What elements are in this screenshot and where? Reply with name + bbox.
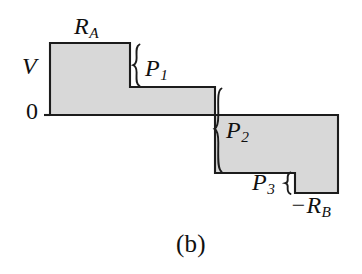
label-voltage-axis: V (22, 54, 37, 78)
label-region-b: −RB (290, 193, 331, 220)
p3-brace-icon (285, 173, 290, 194)
label-p1: P1 (145, 56, 168, 83)
figure-caption: (b) (176, 231, 206, 256)
label-region-a: RA (74, 14, 99, 41)
label-p2: P2 (226, 118, 249, 145)
label-zero-level: 0 (26, 99, 38, 123)
figure-container: RA V 0 P1 P2 P3 −RB (b) (0, 0, 362, 274)
upper-potential-block (50, 43, 215, 115)
p1-brace-icon (133, 45, 139, 86)
label-p3: P3 (252, 170, 275, 197)
